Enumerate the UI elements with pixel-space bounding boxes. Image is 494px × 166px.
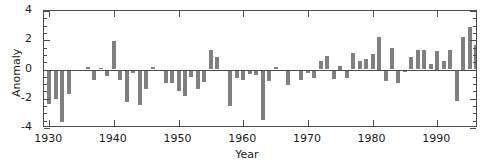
x-tick-major	[179, 120, 180, 126]
y-tick-right-minor	[473, 113, 476, 114]
bar	[118, 70, 122, 80]
bar	[332, 70, 336, 80]
y-tick-major	[44, 128, 50, 129]
y-tick-right-minor	[473, 91, 476, 92]
bar	[241, 70, 245, 81]
bar	[409, 57, 413, 69]
bar	[67, 70, 71, 94]
y-tick-minor	[44, 91, 47, 92]
y-tick-minor	[44, 106, 47, 107]
x-tick-top-major	[114, 11, 115, 17]
y-tick-minor	[44, 33, 47, 34]
bar	[455, 70, 459, 101]
y-tick-label: -2	[0, 92, 32, 103]
y-tick-label: -4	[0, 121, 32, 132]
bar	[377, 37, 381, 70]
bar	[183, 70, 187, 96]
y-tick-label: 0	[0, 63, 32, 74]
bar	[384, 70, 388, 82]
y-tick-right-major	[470, 128, 476, 129]
bar	[138, 70, 142, 106]
bar	[468, 27, 472, 69]
bar	[422, 50, 426, 69]
y-tick-minor	[44, 121, 47, 122]
x-tick-label: 1930	[34, 133, 62, 144]
y-tick-right-minor	[473, 77, 476, 78]
y-tick-right-major	[470, 70, 476, 71]
x-tick-major	[308, 120, 309, 126]
x-tick-major	[49, 120, 50, 126]
bar	[228, 70, 232, 107]
bar	[60, 70, 64, 123]
y-tick-major	[44, 99, 50, 100]
zero-baseline	[44, 70, 476, 71]
y-tick-major	[44, 70, 50, 71]
bar	[448, 50, 452, 70]
bar	[435, 51, 439, 69]
bar	[442, 61, 446, 69]
y-tick-label: 4	[0, 4, 32, 15]
y-tick-major	[44, 40, 50, 41]
bar	[299, 70, 303, 81]
y-tick-right-minor	[473, 18, 476, 19]
y-tick-right-minor	[473, 48, 476, 49]
bar	[267, 70, 271, 82]
y-tick-right-minor	[473, 84, 476, 85]
y-tick-right-minor	[473, 62, 476, 63]
bar	[125, 70, 129, 102]
bar	[144, 70, 148, 90]
y-tick-right-minor	[473, 55, 476, 56]
x-tick-major	[114, 120, 115, 126]
y-tick-minor	[44, 62, 47, 63]
y-tick-minor	[44, 77, 47, 78]
bar	[112, 41, 116, 70]
bar	[396, 70, 400, 84]
bar	[92, 70, 96, 81]
bar	[164, 70, 168, 84]
x-tick-major	[437, 120, 438, 126]
y-tick-right-minor	[473, 106, 476, 107]
x-tick-label: 1980	[358, 133, 386, 144]
x-tick-top-major	[373, 11, 374, 17]
bar	[209, 50, 213, 69]
bar	[215, 57, 219, 69]
bar	[416, 50, 420, 70]
bar	[371, 54, 375, 69]
bar	[54, 70, 58, 100]
x-tick-top-major	[179, 11, 180, 17]
x-tick-top-major	[308, 11, 309, 17]
bar	[390, 48, 394, 69]
x-tick-top-major	[437, 11, 438, 17]
x-tick-top-major	[243, 11, 244, 17]
bar	[235, 70, 239, 78]
y-tick-right-major	[470, 11, 476, 12]
y-tick-minor	[44, 113, 47, 114]
y-tick-right-major	[470, 99, 476, 100]
bar	[312, 70, 316, 79]
bars-layer	[44, 11, 476, 126]
bar	[345, 70, 349, 78]
y-tick-minor	[44, 18, 47, 19]
bar	[177, 70, 181, 92]
x-tick-label: 1960	[228, 133, 256, 144]
bar	[261, 70, 265, 120]
x-tick-label: 1950	[164, 133, 192, 144]
bar	[461, 37, 465, 70]
bar	[286, 70, 290, 85]
x-axis-label: Year	[0, 148, 494, 161]
y-tick-label: 2	[0, 33, 32, 44]
y-tick-right-minor	[473, 121, 476, 122]
x-tick-top-major	[49, 11, 50, 17]
bar	[358, 61, 362, 69]
bar	[474, 45, 476, 69]
x-tick-major	[243, 120, 244, 126]
bar	[189, 70, 193, 77]
y-tick-minor	[44, 26, 47, 27]
bar	[196, 70, 200, 90]
x-tick-major	[373, 120, 374, 126]
bar	[170, 70, 174, 83]
y-tick-minor	[44, 55, 47, 56]
bar	[202, 70, 206, 82]
y-tick-right-major	[470, 40, 476, 41]
x-tick-label: 1990	[422, 133, 450, 144]
